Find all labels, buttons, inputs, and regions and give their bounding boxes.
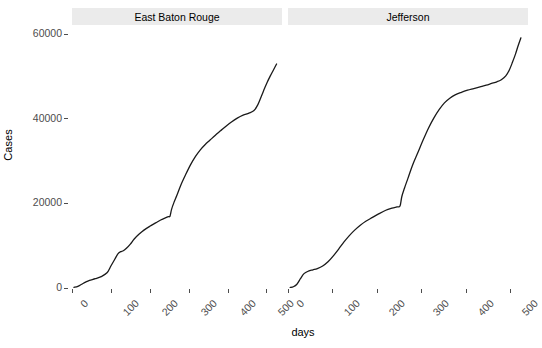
y-tick-mark [64, 288, 68, 289]
x-tick-label: 0 [294, 297, 307, 310]
x-tick-label: 400 [237, 297, 258, 318]
x-tick-mark [332, 289, 333, 293]
x-tick-mark [421, 289, 422, 293]
plot-panel-jefferson [288, 26, 528, 288]
facet-label-east-baton-rouge: East Baton Rouge [134, 11, 219, 23]
x-tick-label: 0 [78, 297, 91, 310]
y-tick-label: 0 [56, 281, 62, 293]
plot-panel-east-baton-rouge [72, 26, 282, 288]
x-tick-mark [510, 289, 511, 293]
x-tick-mark [377, 289, 378, 293]
line-series-east-baton-rouge [72, 26, 282, 288]
y-tick-label: 20000 [33, 196, 62, 208]
y-tick-label: 40000 [33, 112, 62, 124]
x-tick-label: 500 [519, 297, 540, 318]
y-axis-title: Cases [2, 0, 16, 290]
x-tick-label: 300 [198, 297, 219, 318]
y-tick-label: 60000 [33, 27, 62, 39]
x-tick-mark [266, 289, 267, 293]
y-tick-mark [64, 203, 68, 204]
x-axis-title: days [78, 326, 528, 338]
chart-figure: Cases 0200004000060000 East Baton Rouge … [0, 0, 542, 348]
x-tick-label: 100 [120, 297, 141, 318]
x-tick-mark [72, 289, 73, 293]
y-tick-mark [64, 34, 68, 35]
x-tick-mark [228, 289, 229, 293]
series-line [290, 38, 521, 288]
x-tick-mark [150, 289, 151, 293]
x-tick-label: 200 [386, 297, 407, 318]
x-tick-label: 400 [475, 297, 496, 318]
x-tick-mark [288, 289, 289, 293]
x-tick-label: 200 [159, 297, 180, 318]
facet-label-jefferson: Jefferson [387, 11, 430, 23]
x-tick-label: 100 [342, 297, 363, 318]
x-tick-mark [466, 289, 467, 293]
x-tick-mark [189, 289, 190, 293]
x-tick-mark [111, 289, 112, 293]
line-series-jefferson [288, 26, 528, 288]
facet-strip-east-baton-rouge: East Baton Rouge [72, 8, 282, 25]
x-tick-label: 300 [430, 297, 451, 318]
series-line [74, 64, 277, 287]
y-tick-mark [64, 118, 68, 119]
facet-strip-jefferson: Jefferson [288, 8, 528, 25]
